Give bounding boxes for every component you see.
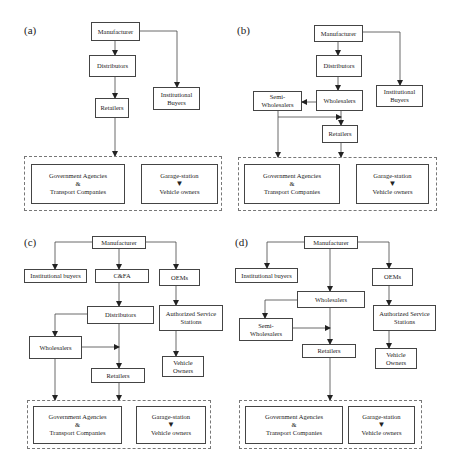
- node-label: Manufacturer: [313, 239, 348, 247]
- node-government-transport: Government Agencies&Transport Companies: [31, 164, 125, 204]
- arrow-d-mfr-oem: [358, 242, 389, 268]
- node-label: Transport Companies: [264, 188, 320, 196]
- node-label: Vehicle owners: [160, 188, 200, 196]
- node-government-transport: Government Agencies&Transport Companies: [245, 406, 343, 444]
- node-label: Owners: [173, 367, 193, 375]
- node-label: Wholesalers: [261, 101, 293, 109]
- node-label: Manufacturer: [101, 239, 136, 247]
- node-label: Institutional: [161, 91, 192, 99]
- node-authorized-service-stations: Authorized ServiceStations: [159, 305, 223, 331]
- node-label: Government Agencies: [49, 413, 107, 421]
- node-label: Vehicle: [173, 359, 193, 367]
- panel-label-a: (a): [24, 24, 36, 36]
- node-distributors: Distributors: [316, 55, 362, 77]
- panel-label-b: (b): [237, 24, 250, 36]
- node-label: OEMs: [171, 274, 188, 282]
- arrow-c-mfr-inst: [55, 242, 92, 269]
- arrow-c-dist-whl: [55, 314, 87, 336]
- node-label: Wholesalers: [39, 344, 71, 352]
- arrow-d-mfr-inst: [267, 242, 304, 268]
- node-label: Government Agencies: [49, 172, 107, 180]
- node-label: Retailers: [100, 104, 123, 112]
- node-semi-wholesalers: Semi-Wholesalers: [239, 318, 293, 341]
- node-label: Vehicle owners: [362, 429, 402, 437]
- node-vehicle-owners: VehicleOwners: [375, 348, 417, 369]
- node-label: Institutional buyers: [241, 272, 291, 280]
- node-label: Vehicle: [386, 351, 406, 359]
- node-label: Owners: [386, 359, 406, 367]
- arrow-b-mfr-inst: [363, 32, 400, 85]
- node-oems: OEMs: [159, 269, 200, 286]
- node-label: Distributors: [323, 62, 354, 70]
- node-retailers: Retailers: [302, 344, 356, 358]
- node-label: Transport Companies: [50, 429, 106, 437]
- node-retailers: Retailers: [95, 98, 129, 118]
- node-label: Stations: [394, 318, 415, 326]
- node-garage-vehicle: Garage-station▼Vehicle owners: [356, 164, 429, 204]
- node-label: Distributors: [105, 311, 136, 319]
- node-distributors: Distributors: [89, 55, 136, 77]
- arrow-d-whl-semi: [265, 300, 297, 318]
- node-garage-vehicle: Garage-station▼Vehicle owners: [141, 164, 218, 204]
- node-label: Wholesalers: [315, 296, 347, 304]
- node-manufacturer: Manufacturer: [92, 236, 146, 249]
- connector-layer: [0, 0, 458, 469]
- node-government-transport: Government Agencies&Transport Companies: [244, 164, 340, 204]
- node-label: Institutional buyers: [30, 272, 80, 280]
- node-label: Institutional: [384, 88, 415, 96]
- node-institutional-buyers: InstitutionalBuyers: [153, 87, 200, 110]
- down-arrow-icon: ▼: [378, 421, 386, 429]
- node-government-transport: Government Agencies&Transport Companies: [33, 406, 122, 444]
- node-label: Distributors: [97, 62, 128, 70]
- distribution-channel-diagrams: (a) Manufacturer Distributors Retailers …: [0, 0, 458, 469]
- node-retailers: Retailers: [91, 368, 145, 383]
- arrow-a-mfr-inst: [140, 31, 177, 87]
- node-label: Retailers: [106, 372, 129, 380]
- node-label: Authorized Service: [379, 310, 429, 318]
- node-label: Transport Companies: [50, 188, 106, 196]
- node-label: &: [75, 421, 80, 429]
- node-label: &: [291, 421, 296, 429]
- node-label: Transport Companies: [266, 429, 322, 437]
- node-institutional-buyers: InstitutionalBuyers: [376, 85, 423, 107]
- node-authorized-service-stations: Authorized ServiceStations: [373, 305, 436, 331]
- node-manufacturer: Manufacturer: [314, 25, 363, 42]
- node-manufacturer: Manufacturer: [91, 22, 140, 41]
- node-label: Vehicle owners: [151, 429, 191, 437]
- node-garage-vehicle: Garage-station▼Vehicle owners: [348, 406, 415, 444]
- arrow-c-mfr-oem: [146, 242, 176, 269]
- node-label: Wholesalers: [323, 97, 355, 105]
- node-label: Buyers: [167, 99, 185, 107]
- node-label: Retailers: [328, 130, 351, 138]
- panel-label-c: (c): [24, 236, 36, 248]
- down-arrow-icon: ▼: [389, 180, 397, 188]
- node-manufacturer: Manufacturer: [304, 236, 358, 249]
- node-label: Government Agencies: [265, 413, 323, 421]
- down-arrow-icon: ▼: [176, 180, 184, 188]
- node-distributors: Distributors: [87, 306, 154, 324]
- node-semi-wholesalers: Semi-Wholesalers: [253, 91, 302, 111]
- node-label: Authorized Service: [166, 310, 216, 318]
- node-institutional-buyers: Institutional buyers: [235, 268, 298, 283]
- node-label: &: [75, 180, 80, 188]
- node-label: Government Agencies: [263, 172, 321, 180]
- node-label: Semi-: [258, 322, 274, 330]
- node-label: Semi-: [270, 93, 286, 101]
- node-label: Retailers: [317, 347, 340, 355]
- node-garage-vehicle: Garage-station▼Vehicle owners: [136, 406, 206, 444]
- node-label: C&FA: [113, 272, 130, 280]
- node-label: Manufacturer: [321, 30, 356, 38]
- node-label: Vehicle owners: [373, 188, 413, 196]
- node-oems: OEMs: [372, 268, 413, 286]
- node-wholesalers: Wholesalers: [297, 291, 365, 308]
- node-wholesalers: Wholesalers: [316, 90, 363, 111]
- node-label: OEMs: [384, 273, 401, 281]
- node-label: Stations: [181, 318, 202, 326]
- node-label: Wholesalers: [250, 330, 282, 338]
- down-arrow-icon: ▼: [167, 421, 175, 429]
- node-label: &: [289, 180, 294, 188]
- node-vehicle-owners: VehicleOwners: [162, 356, 204, 377]
- node-label: Manufacturer: [98, 28, 133, 36]
- node-retailers: Retailers: [322, 125, 358, 143]
- node-cfa: C&FA: [95, 269, 149, 283]
